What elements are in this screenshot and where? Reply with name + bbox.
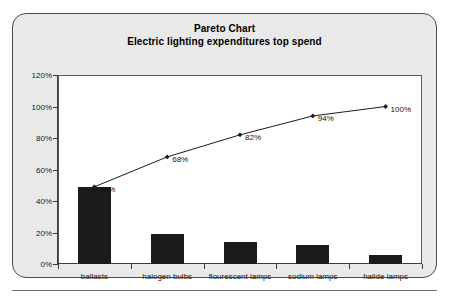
x-tick-mark: [58, 264, 59, 269]
chart-title: Pareto Chart: [13, 22, 436, 35]
y-tick-mark: [53, 138, 58, 139]
y-tick-label: 80%: [36, 134, 52, 143]
y-tick-mark: [53, 107, 58, 108]
y-axis-labels: 0%20%40%60%80%100%120%: [13, 14, 52, 301]
plot-inner: [59, 76, 421, 263]
x-category-label: halogen bulbs: [142, 272, 192, 282]
x-tick-mark: [276, 264, 277, 269]
chart-panel: Pareto Chart Electric lighting expenditu…: [12, 13, 437, 278]
x-category-label: sodium lamps: [288, 272, 337, 282]
x-category-label: halide lamps: [363, 272, 408, 282]
x-tick-mark: [422, 264, 423, 269]
y-tick-mark: [53, 170, 58, 171]
x-tick-mark: [349, 264, 350, 269]
bar: [224, 242, 257, 264]
y-tick-label: 120%: [32, 71, 52, 80]
plot-area: [58, 75, 422, 264]
x-tick-mark: [204, 264, 205, 269]
y-tick-mark: [53, 233, 58, 234]
y-tick-label: 40%: [36, 197, 52, 206]
y-tick-label: 0%: [40, 260, 52, 269]
x-category-label: flourescent lamps: [209, 272, 272, 282]
y-tick-mark: [53, 75, 58, 76]
y-tick-mark: [53, 264, 58, 265]
x-category-label: ballasts: [81, 272, 108, 282]
x-tick-mark: [131, 264, 132, 269]
bar: [296, 245, 329, 264]
bar: [369, 255, 402, 264]
chart-title-block: Pareto Chart Electric lighting expenditu…: [13, 22, 436, 48]
chart-subtitle: Electric lighting expenditures top spend: [13, 35, 436, 48]
y-tick-mark: [53, 201, 58, 202]
bar: [151, 234, 184, 264]
y-tick-label: 60%: [36, 165, 52, 174]
bar: [78, 187, 111, 264]
y-tick-label: 20%: [36, 228, 52, 237]
bottom-divider: [12, 290, 437, 291]
y-tick-label: 100%: [32, 102, 52, 111]
